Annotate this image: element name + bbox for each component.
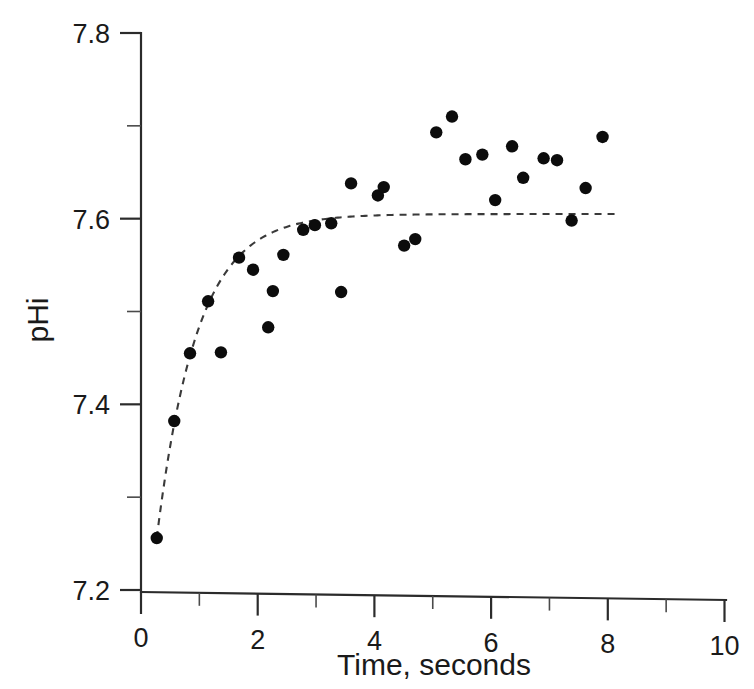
data-point bbox=[325, 217, 337, 229]
data-point bbox=[430, 126, 442, 138]
data-point bbox=[517, 172, 529, 184]
x-tick-label-10: 10 bbox=[709, 631, 739, 661]
data-point bbox=[506, 140, 518, 152]
data-point bbox=[215, 346, 227, 358]
y-axis-title: pHi bbox=[21, 297, 54, 342]
y-tick-label-7.8: 7.8 bbox=[72, 19, 110, 49]
data-point bbox=[345, 177, 357, 189]
data-point bbox=[476, 148, 488, 160]
data-point bbox=[184, 347, 196, 359]
fit-curve-dashed bbox=[157, 214, 615, 538]
x-axis-title: Time, seconds bbox=[337, 648, 531, 681]
data-point bbox=[378, 181, 390, 193]
y-tick-label-7.4: 7.4 bbox=[72, 390, 110, 420]
data-point bbox=[262, 321, 274, 333]
y-tick-label-7.6: 7.6 bbox=[72, 205, 110, 235]
chart-figure: 7.27.47.67.8 0246810 pHi Time, seconds bbox=[0, 0, 754, 689]
data-point bbox=[335, 286, 347, 298]
x-tick-label-8: 8 bbox=[600, 629, 615, 659]
x-tick-label-0: 0 bbox=[133, 623, 148, 653]
data-point bbox=[267, 285, 279, 297]
data-point bbox=[309, 219, 321, 231]
data-point bbox=[277, 249, 289, 261]
data-point bbox=[409, 233, 421, 245]
y-axis-tick-labels: 7.27.47.67.8 bbox=[72, 19, 110, 606]
data-point bbox=[489, 194, 501, 206]
x-tick-label-2: 2 bbox=[250, 625, 265, 655]
data-point bbox=[551, 154, 563, 166]
data-point bbox=[446, 110, 458, 122]
y-tick-label-7.2: 7.2 bbox=[72, 576, 110, 606]
data-point bbox=[202, 295, 214, 307]
scatter-plot-svg: 7.27.47.67.8 0246810 pHi Time, seconds bbox=[0, 0, 754, 689]
data-point bbox=[579, 182, 591, 194]
data-point bbox=[297, 224, 309, 236]
y-axis-minor-ticks bbox=[127, 126, 141, 497]
data-points-group bbox=[151, 110, 609, 544]
data-point bbox=[459, 153, 471, 165]
data-point bbox=[168, 415, 180, 427]
data-point bbox=[596, 131, 608, 143]
data-point bbox=[565, 214, 577, 226]
data-point bbox=[151, 532, 163, 544]
data-point bbox=[398, 239, 410, 251]
data-point bbox=[233, 251, 245, 263]
data-point bbox=[247, 264, 259, 276]
data-point bbox=[537, 152, 549, 164]
